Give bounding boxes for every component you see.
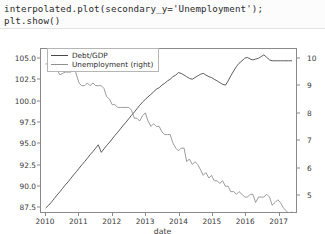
legend-swatch-icon-1 bbox=[51, 64, 68, 65]
right-y-tick-mark-2 bbox=[297, 112, 300, 113]
code-line-1: interpolated.plot(secondary_y='Unemploym… bbox=[4, 3, 325, 15]
left-y-tick-mark-4 bbox=[37, 143, 40, 144]
x-tick-3: 2013 bbox=[136, 217, 155, 226]
notebook-code-cell[interactable]: interpolated.plot(secondary_y='Unemploym… bbox=[0, 0, 325, 28]
x-tick-mark-0 bbox=[45, 213, 46, 216]
right-y-tick-5: 5 bbox=[307, 191, 312, 200]
right-y-tick-1: 9 bbox=[307, 81, 312, 90]
chart-curves bbox=[41, 49, 296, 212]
right-y-tick-mark-3 bbox=[297, 140, 300, 141]
left-y-tick-4: 95.0 bbox=[20, 139, 36, 148]
x-tick-7: 2017 bbox=[269, 217, 288, 226]
left-y-tick-mark-6 bbox=[37, 185, 40, 186]
matplotlib-figure: 105.0102.5100.097.595.092.590.087.5 1098… bbox=[0, 31, 325, 234]
x-tick-6: 2016 bbox=[236, 217, 255, 226]
right-y-tick-4: 6 bbox=[307, 163, 312, 172]
x-tick-mark-6 bbox=[245, 213, 246, 216]
left-y-tick-0: 105.0 bbox=[15, 54, 36, 63]
code-line-2: plt.show() bbox=[4, 15, 325, 27]
legend-item-0: Debt/GDP bbox=[51, 51, 153, 60]
plot-area bbox=[40, 48, 297, 213]
x-tick-2: 2012 bbox=[102, 217, 121, 226]
right-y-tick-mark-4 bbox=[297, 167, 300, 168]
x-tick-4: 2014 bbox=[169, 217, 188, 226]
left-y-tick-7: 87.5 bbox=[20, 203, 36, 212]
x-tick-1: 2011 bbox=[69, 217, 88, 226]
chart-legend: Debt/GDPUnemployment (right) bbox=[47, 48, 159, 72]
legend-label-1: Unemployment (right) bbox=[72, 60, 153, 69]
left-y-tick-5: 92.5 bbox=[20, 160, 36, 169]
series-line-debt-gdp bbox=[46, 55, 292, 208]
right-y-tick-3: 7 bbox=[307, 136, 312, 145]
right-y-axis-tick-labels: 1098765 bbox=[301, 48, 325, 213]
left-y-tick-mark-5 bbox=[37, 164, 40, 165]
legend-label-0: Debt/GDP bbox=[72, 51, 108, 60]
x-tick-mark-5 bbox=[212, 213, 213, 216]
left-y-tick-mark-1 bbox=[37, 79, 40, 80]
right-y-tick-2: 8 bbox=[307, 108, 312, 117]
x-tick-mark-4 bbox=[179, 213, 180, 216]
x-tick-mark-2 bbox=[112, 213, 113, 216]
x-tick-mark-1 bbox=[78, 213, 79, 216]
left-y-axis-tick-labels: 105.0102.5100.097.595.092.590.087.5 bbox=[0, 48, 36, 213]
left-y-tick-2: 100.0 bbox=[15, 96, 36, 105]
left-y-tick-1: 102.5 bbox=[15, 75, 36, 84]
cell-separator bbox=[0, 28, 325, 29]
left-y-tick-mark-3 bbox=[37, 121, 40, 122]
left-y-tick-mark-7 bbox=[37, 207, 40, 208]
right-y-tick-mark-1 bbox=[297, 85, 300, 86]
right-y-tick-mark-5 bbox=[297, 195, 300, 196]
left-y-tick-mark-2 bbox=[37, 100, 40, 101]
right-y-tick-0: 10 bbox=[307, 53, 316, 62]
right-y-tick-mark-0 bbox=[297, 57, 300, 58]
legend-swatch-icon-0 bbox=[51, 55, 68, 56]
x-tick-mark-7 bbox=[279, 213, 280, 216]
x-tick-0: 2010 bbox=[36, 217, 55, 226]
x-axis-label: date bbox=[0, 227, 325, 234]
left-y-tick-mark-0 bbox=[37, 58, 40, 59]
x-tick-5: 2015 bbox=[202, 217, 221, 226]
left-y-tick-3: 97.5 bbox=[20, 117, 36, 126]
series-line-unemployment bbox=[46, 61, 292, 212]
left-y-tick-6: 90.0 bbox=[20, 181, 36, 190]
x-tick-mark-3 bbox=[145, 213, 146, 216]
legend-item-1: Unemployment (right) bbox=[51, 60, 153, 69]
